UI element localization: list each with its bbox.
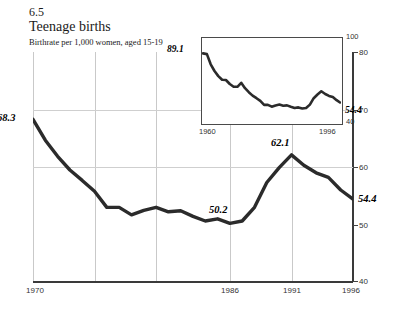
main-xtick-label-1986: 1986 — [221, 286, 239, 295]
figure-number: 6.5 — [29, 6, 44, 19]
main-ytickmark-50 — [353, 225, 358, 226]
main-ytick-label-50: 50 — [359, 222, 368, 230]
main-annotation-68-3: 68.3 — [0, 112, 15, 123]
inset-chart-plot-area — [201, 37, 343, 125]
main-xtick-label-1970: 1970 — [26, 286, 44, 295]
inset-xtick-label-1996: 1996 — [319, 128, 336, 136]
main-xtick-label-1991: 1991 — [283, 286, 301, 295]
figure-title: Teenage births — [29, 19, 111, 34]
inset-ytick-label-100: 100 — [346, 33, 359, 41]
main-ytickmark-80 — [353, 52, 358, 53]
main-annotation-62-1: 62.1 — [271, 137, 289, 148]
inset-ytick-label-40: 40 — [346, 118, 354, 126]
inset-series-line — [202, 38, 341, 123]
figure-root: 6.5 Teenage births Birthrate per 1,000 w… — [0, 0, 394, 316]
main-ytickmark-40 — [353, 281, 358, 282]
main-ytickmark-60 — [353, 167, 358, 168]
main-xtick-label-1996: 1996 — [342, 286, 360, 295]
inset-annotation-54-4: 54.4 — [345, 105, 362, 115]
main-annotation-50-2: 50.2 — [209, 204, 227, 215]
inset-xtick-label-1960: 1960 — [199, 128, 216, 136]
main-ytick-label-80: 80 — [359, 49, 368, 57]
main-annotation-54-4: 54.4 — [358, 193, 376, 204]
main-ytick-label-40: 40 — [359, 278, 368, 286]
inset-annotation-89-1: 89.1 — [167, 44, 184, 54]
main-ytick-label-60: 60 — [359, 164, 368, 172]
figure-subtitle: Birthrate per 1,000 women, aged 15-19 — [29, 37, 163, 47]
